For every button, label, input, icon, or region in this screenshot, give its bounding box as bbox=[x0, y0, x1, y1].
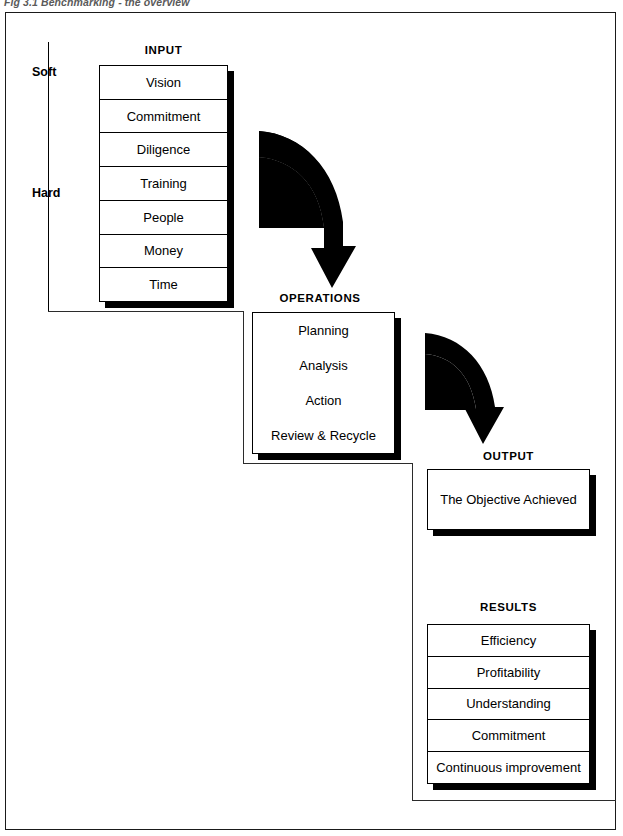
output-item: The Objective Achieved bbox=[428, 470, 589, 529]
input-item: Vision bbox=[100, 66, 227, 100]
heading-output: OUTPUT bbox=[427, 450, 590, 462]
operations-item: Review & Recycle bbox=[253, 418, 394, 453]
figure-canvas: Fig 3.1 Benchmarking - the overview Soft… bbox=[0, 0, 623, 836]
results-item: Profitability bbox=[428, 657, 589, 689]
scale-label-soft: Soft bbox=[32, 65, 56, 79]
heading-input: INPUT bbox=[99, 44, 228, 56]
connector-operations-output-horizontal bbox=[243, 463, 413, 464]
input-item: Training bbox=[100, 167, 227, 201]
box-results-body: Efficiency Profitability Understanding C… bbox=[427, 624, 590, 784]
operations-item: Planning bbox=[253, 313, 394, 348]
operations-item: Analysis bbox=[253, 348, 394, 383]
box-operations-body: Planning Analysis Action Review & Recycl… bbox=[252, 312, 395, 454]
results-item: Understanding bbox=[428, 689, 589, 721]
results-item: Commitment bbox=[428, 720, 589, 752]
box-operations: Planning Analysis Action Review & Recycl… bbox=[252, 312, 395, 454]
connector-operations-output-vertical bbox=[412, 463, 413, 800]
input-item: Money bbox=[100, 235, 227, 269]
box-input: Vision Commitment Diligence Training Peo… bbox=[99, 65, 228, 302]
heading-results: RESULTS bbox=[427, 601, 590, 613]
scale-label-hard: Hard bbox=[32, 186, 60, 200]
operations-item: Action bbox=[253, 383, 394, 418]
scale-axis-line bbox=[48, 42, 49, 311]
box-input-body: Vision Commitment Diligence Training Peo… bbox=[99, 65, 228, 302]
input-item: Time bbox=[100, 268, 227, 301]
arrow-input-to-operations bbox=[250, 128, 356, 300]
box-output: The Objective Achieved bbox=[427, 469, 590, 530]
connector-input-operations-horizontal bbox=[48, 311, 244, 312]
connector-input-operations-vertical bbox=[243, 311, 244, 463]
figure-caption: Fig 3.1 Benchmarking - the overview bbox=[4, 0, 190, 8]
input-item: People bbox=[100, 201, 227, 235]
input-item: Commitment bbox=[100, 100, 227, 134]
heading-operations: OPERATIONS bbox=[244, 292, 396, 304]
input-item: Diligence bbox=[100, 133, 227, 167]
box-results: Efficiency Profitability Understanding C… bbox=[427, 624, 590, 784]
arrow-operations-to-output bbox=[418, 331, 504, 449]
box-output-body: The Objective Achieved bbox=[427, 469, 590, 530]
connector-results-bottom-horizontal bbox=[412, 800, 616, 801]
results-item: Continuous improvement bbox=[428, 752, 589, 783]
results-item: Efficiency bbox=[428, 625, 589, 657]
